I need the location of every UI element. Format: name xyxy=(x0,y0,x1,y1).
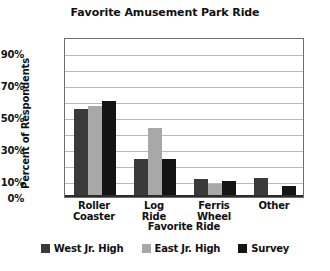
x-axis-title: Favorite Ride xyxy=(64,221,304,232)
x-axis-tick-label-line: Other xyxy=(239,200,309,211)
bar-group xyxy=(254,39,296,197)
bar xyxy=(148,128,162,197)
x-axis-tick-label: Other xyxy=(239,200,309,211)
axis-baseline xyxy=(65,195,303,197)
legend-item: West Jr. High xyxy=(41,243,124,254)
chart-legend: West Jr. HighEast Jr. HighSurvey xyxy=(0,243,330,254)
legend-swatch-icon xyxy=(41,244,50,253)
chart-screenshot: Favorite Amusement Park Ride Percent of … xyxy=(0,0,330,271)
plot-area xyxy=(64,38,304,198)
legend-label: Survey xyxy=(251,243,289,254)
bar-group xyxy=(194,39,236,197)
chart-title: Favorite Amusement Park Ride xyxy=(0,6,330,19)
bar xyxy=(74,109,88,197)
bars-layer xyxy=(65,39,303,197)
bar xyxy=(88,106,102,197)
bar xyxy=(162,159,176,197)
legend-item: East Jr. High xyxy=(142,243,221,254)
y-axis-tick-label: 70% xyxy=(0,81,24,92)
y-axis-tick-label: 30% xyxy=(0,145,24,156)
y-axis-tick-label: 90% xyxy=(0,49,24,60)
bar-group xyxy=(134,39,176,197)
y-axis-tick-label: 0% xyxy=(0,193,24,204)
legend-label: West Jr. High xyxy=(54,243,124,254)
legend-item: Survey xyxy=(238,243,289,254)
bar xyxy=(102,101,116,197)
bar xyxy=(134,159,148,197)
bar-group xyxy=(74,39,116,197)
legend-label: East Jr. High xyxy=(155,243,221,254)
y-axis-tick-label: 10% xyxy=(0,177,24,188)
legend-swatch-icon xyxy=(142,244,151,253)
y-axis-tick-label: 50% xyxy=(0,113,24,124)
legend-swatch-icon xyxy=(238,244,247,253)
